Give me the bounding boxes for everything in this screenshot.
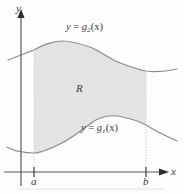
lower-curve-label: y = g1(x): [81, 123, 118, 135]
upper-curve-lhs: y: [66, 21, 71, 32]
lower-curve-equals: =: [88, 122, 94, 133]
figure-region-between-curves: y x a b R y = g2(x) y = g1(x): [0, 0, 184, 194]
lower-curve-arg: (x): [106, 122, 118, 133]
tick-label-a: a: [31, 176, 37, 187]
region-label-R: R: [76, 83, 83, 94]
y-axis-label: y: [16, 3, 21, 14]
shaded-region-R: [34, 41, 146, 153]
y-axis: [17, 9, 24, 186]
tick-label-b: b: [143, 176, 149, 187]
upper-curve-label: y = g2(x): [66, 22, 103, 34]
upper-curve-arg: (x): [91, 21, 103, 32]
lower-curve-lhs: y: [81, 122, 86, 133]
x-axis-label: x: [171, 166, 176, 177]
upper-curve-equals: =: [73, 21, 79, 32]
